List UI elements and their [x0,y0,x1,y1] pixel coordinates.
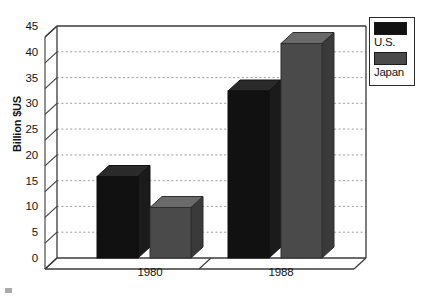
y-tick-label-30: 30 [12,97,38,109]
x-category-label-1980: 1980 [115,266,185,278]
legend-label-japan: Japan [374,66,411,79]
bar-1980-japan [150,197,203,259]
y-tick-label-40: 40 [12,46,38,58]
y-tick-label-0: 0 [12,252,38,264]
y-tick-label-5: 5 [12,226,38,238]
y-tick-label-45: 45 [12,20,38,32]
y-tick-label-15: 15 [12,175,38,187]
bar-1988-us [228,80,281,258]
y-tick-label-20: 20 [12,149,38,161]
legend: U.S. Japan [369,17,415,86]
legend-swatch-japan [374,52,407,65]
y-tick-label-25: 25 [12,123,38,135]
legend-swatch-us [374,22,407,35]
bar-1988-japan [281,33,334,259]
y-axis-ticks [45,26,57,269]
plot-area [0,0,428,300]
x-category-label-1988: 1988 [246,266,316,278]
y-tick-label-10: 10 [12,200,38,212]
y-tick-label-35: 35 [12,72,38,84]
bar-1980-us [97,166,150,259]
x-axis-ticks [199,258,211,269]
legend-label-us: U.S. [374,36,411,49]
bar-chart: Billion $US [0,0,428,300]
scan-artifact [5,288,12,293]
y-axis-spine [45,26,57,269]
